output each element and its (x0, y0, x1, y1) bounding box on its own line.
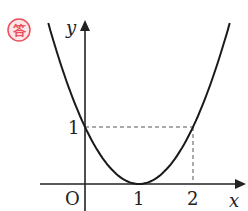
y-axis-label: y (65, 17, 77, 38)
answer-badge-text: 答 (13, 23, 27, 38)
origin-label: O (65, 188, 80, 209)
answer-badge: 答 (8, 19, 30, 41)
x-axis-label: x (229, 190, 239, 211)
y-tick-1: 1 (68, 117, 79, 138)
parabola-chart: 答 y x O 1 2 1 (0, 0, 248, 211)
x-axis-arrow-icon (235, 179, 246, 189)
x-tick-1: 1 (133, 188, 144, 209)
y-axis-arrow-icon (80, 20, 90, 31)
parabola-curve (48, 23, 229, 184)
x-tick-2: 2 (187, 188, 198, 209)
